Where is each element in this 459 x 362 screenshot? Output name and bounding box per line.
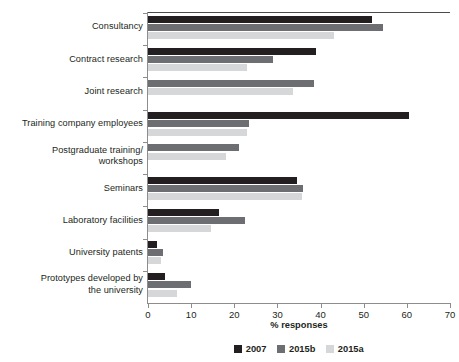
chart-category-row: University patents	[0, 239, 459, 271]
x-axis-tick	[277, 303, 278, 308]
bar-group	[148, 177, 303, 200]
legend-swatch-icon	[234, 345, 242, 353]
category-label: University patents	[0, 247, 143, 259]
category-label-line: Postgraduate training/	[0, 145, 143, 157]
bar-2007	[148, 209, 219, 216]
category-label-line: workshops	[0, 156, 143, 168]
category-label: Joint research	[0, 86, 143, 98]
bar-group	[148, 48, 316, 71]
category-label-line: Prototypes developed by	[0, 273, 143, 285]
category-label-line: Training company employees	[0, 118, 143, 130]
bar-2015a	[148, 64, 247, 71]
bar-2015a	[148, 88, 293, 95]
legend-item-2015b[interactable]: 2015b	[277, 344, 315, 354]
bar-2015b	[148, 144, 239, 151]
bar-group	[148, 80, 314, 95]
legend-item-2015a[interactable]: 2015a	[326, 344, 363, 354]
category-label: Laboratory facilities	[0, 215, 143, 227]
x-axis-tick-label: 30	[257, 309, 297, 320]
chart-category-row: Postgraduate training/workshops	[0, 142, 459, 174]
x-axis-tick-label: 10	[171, 309, 211, 320]
bar-group	[148, 144, 239, 159]
bar-2015b	[148, 217, 245, 224]
x-axis-tick	[407, 303, 408, 308]
x-axis-tick-label: 40	[301, 309, 341, 320]
x-axis-tick-label: 0	[128, 309, 168, 320]
category-label: Prototypes developed bythe university	[0, 273, 143, 296]
chart-legend: 20072015b2015a	[148, 344, 450, 354]
legend-item-2007[interactable]: 2007	[234, 344, 266, 354]
legend-label: 2015a	[338, 344, 364, 354]
y-axis-tick	[143, 77, 148, 78]
y-axis-tick	[143, 45, 148, 46]
bar-2015b	[148, 120, 249, 127]
category-label-line: Contract research	[0, 54, 143, 66]
x-axis-tick	[450, 303, 451, 308]
bar-2015a	[148, 257, 161, 264]
bar-2015b	[148, 80, 314, 87]
chart-category-row: Joint research	[0, 77, 459, 109]
legend-label: 2015b	[289, 344, 315, 354]
category-label-line: Laboratory facilities	[0, 215, 143, 227]
bar-2015a	[148, 32, 334, 39]
bar-2015b	[148, 249, 163, 256]
x-axis-tick	[234, 303, 235, 308]
bar-2007	[148, 241, 157, 248]
category-label: Consultancy	[0, 21, 143, 33]
y-axis-tick	[143, 239, 148, 240]
chart-category-row: Laboratory facilities	[0, 206, 459, 238]
y-axis-tick	[143, 142, 148, 143]
bar-2015a	[148, 225, 211, 232]
y-axis-tick	[143, 271, 148, 272]
x-axis-tick-label: 20	[214, 309, 254, 320]
x-axis-tick-label: 60	[387, 309, 427, 320]
bar-chart: ConsultancyContract researchJoint resear…	[0, 0, 459, 362]
category-rows: ConsultancyContract researchJoint resear…	[0, 13, 459, 303]
x-axis-tick	[148, 303, 149, 308]
category-label-line: Seminars	[0, 183, 143, 195]
category-label-line: Joint research	[0, 86, 143, 98]
bar-2015b	[148, 24, 383, 31]
legend-swatch-icon	[277, 345, 285, 353]
category-label: Postgraduate training/workshops	[0, 145, 143, 168]
y-axis-tick	[143, 174, 148, 175]
y-axis-tick	[143, 206, 148, 207]
chart-category-row: Consultancy	[0, 13, 459, 45]
chart-category-row: Contract research	[0, 45, 459, 77]
y-axis-tick	[143, 13, 148, 14]
category-label-line: Consultancy	[0, 21, 143, 33]
x-axis-title: % responses	[148, 320, 450, 330]
bar-2015b	[148, 185, 303, 192]
x-axis-tick	[321, 303, 322, 308]
bar-group	[148, 241, 163, 264]
chart-category-row: Training company employees	[0, 110, 459, 142]
legend-label: 2007	[246, 344, 267, 354]
bar-2015a	[148, 153, 226, 160]
category-label-line: University patents	[0, 247, 143, 259]
y-axis-tick	[143, 110, 148, 111]
bar-2015a	[148, 129, 247, 136]
category-label-line: the university	[0, 285, 143, 297]
x-axis-tick-label: 70	[430, 309, 459, 320]
category-label: Training company employees	[0, 118, 143, 130]
bar-2007	[148, 177, 297, 184]
category-label: Seminars	[0, 183, 143, 195]
bar-2007	[148, 16, 372, 23]
bar-group	[148, 273, 191, 296]
x-axis-tick	[191, 303, 192, 308]
bar-2015b	[148, 281, 191, 288]
chart-category-row: Prototypes developed bythe university	[0, 271, 459, 303]
bar-2015b	[148, 56, 273, 63]
bar-2015a	[148, 193, 302, 200]
bar-2007	[148, 112, 409, 119]
bar-2007	[148, 273, 165, 280]
category-label: Contract research	[0, 54, 143, 66]
x-axis-tick-label: 50	[344, 309, 384, 320]
x-axis-tick	[364, 303, 365, 308]
bar-group	[148, 16, 383, 39]
bar-2007	[148, 48, 316, 55]
chart-category-row: Seminars	[0, 174, 459, 206]
bar-2015a	[148, 290, 177, 297]
bar-group	[148, 112, 409, 135]
bar-group	[148, 209, 245, 232]
